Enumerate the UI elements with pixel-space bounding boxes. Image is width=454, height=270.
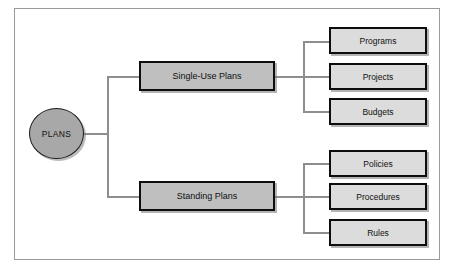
node-standing-plans-label: Standing Plans bbox=[177, 191, 238, 201]
connector-spine-to-single-use bbox=[107, 76, 139, 78]
connector-single-use-stub bbox=[274, 76, 304, 78]
connector-to-policies bbox=[303, 163, 329, 165]
node-plans-root-label: PLANS bbox=[42, 129, 71, 139]
node-rules[interactable]: Rules bbox=[329, 219, 427, 246]
node-programs[interactable]: Programs bbox=[329, 27, 427, 54]
node-policies-label: Policies bbox=[363, 159, 392, 169]
connector-to-procedures bbox=[303, 196, 329, 198]
connector-root-stub bbox=[84, 133, 108, 135]
node-plans-root[interactable]: PLANS bbox=[29, 108, 84, 159]
connector-to-programs bbox=[303, 41, 329, 43]
node-standing-plans[interactable]: Standing Plans bbox=[139, 181, 275, 211]
connector-root-spine bbox=[107, 76, 109, 198]
connector-lower-group-spine bbox=[303, 163, 305, 233]
node-policies[interactable]: Policies bbox=[329, 150, 427, 177]
node-procedures-label: Procedures bbox=[356, 192, 399, 202]
diagram-canvas: PLANS Single-Use Plans Standing Plans Pr… bbox=[0, 0, 454, 270]
node-procedures[interactable]: Procedures bbox=[329, 183, 427, 210]
node-rules-label: Rules bbox=[367, 228, 389, 238]
node-budgets[interactable]: Budgets bbox=[329, 98, 427, 125]
connector-standing-stub bbox=[274, 196, 304, 198]
node-projects-label: Projects bbox=[363, 72, 394, 82]
connector-to-rules bbox=[303, 232, 329, 234]
diagram-page: PLANS Single-Use Plans Standing Plans Pr… bbox=[0, 0, 454, 270]
node-projects[interactable]: Projects bbox=[329, 63, 427, 90]
node-single-use-plans[interactable]: Single-Use Plans bbox=[139, 61, 275, 91]
connector-to-projects bbox=[303, 76, 329, 78]
node-single-use-plans-label: Single-Use Plans bbox=[172, 71, 241, 81]
connector-to-budgets bbox=[303, 111, 329, 113]
connector-spine-to-standing bbox=[107, 196, 139, 198]
node-programs-label: Programs bbox=[360, 36, 397, 46]
node-budgets-label: Budgets bbox=[362, 107, 393, 117]
